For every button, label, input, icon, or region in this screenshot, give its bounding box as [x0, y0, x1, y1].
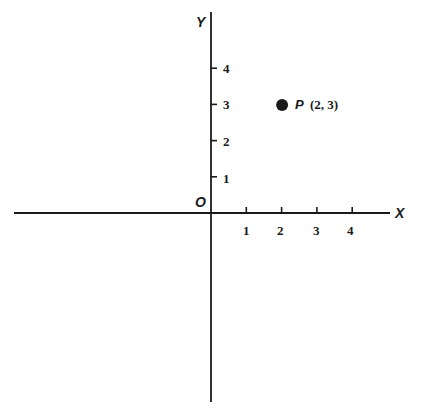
axes-svg — [0, 0, 422, 415]
x-tick-label-4: 4 — [347, 223, 354, 239]
point-p-marker — [276, 99, 288, 111]
y-tick-label-4: 4 — [223, 61, 230, 77]
point-coordinates: (2, 3) — [310, 97, 338, 112]
y-tick-label-2: 2 — [223, 134, 230, 150]
y-tick-label-1: 1 — [223, 171, 230, 187]
y-tick-label-3: 3 — [223, 97, 230, 113]
point-p-label: P (2, 3) — [295, 97, 338, 113]
origin-label: O — [195, 194, 206, 210]
coordinate-plane: Y X O 1 2 3 4 1 2 3 4 P (2, 3) — [0, 0, 422, 415]
x-tick-label-2: 2 — [277, 223, 284, 239]
x-tick-label-1: 1 — [243, 223, 250, 239]
point-name: P — [295, 97, 304, 112]
x-axis-label: X — [395, 205, 404, 221]
x-tick-label-3: 3 — [313, 223, 320, 239]
y-axis-label: Y — [196, 14, 205, 30]
